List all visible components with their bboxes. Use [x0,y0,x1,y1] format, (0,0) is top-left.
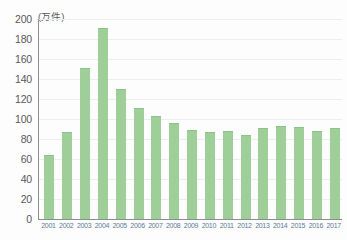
bar-slot [326,19,344,219]
y-axis-tick-label: 0 [26,213,32,225]
bar-slot [165,19,183,219]
bar-slot [254,19,272,219]
bar-slot [290,19,308,219]
x-axis-tick-label: 2015 [289,222,307,229]
y-axis-tick-label: 40 [21,173,32,185]
bar[interactable] [187,130,197,219]
bar[interactable] [80,68,90,219]
bar-slot [201,19,219,219]
y-axis-tick-label: 60 [21,153,32,165]
x-axis-tick-label: 2009 [182,222,200,229]
bar-slot [219,19,237,219]
plot-area [38,19,342,220]
bar-slot [94,19,112,219]
bar[interactable] [330,128,340,219]
y-axis-tick-label: 80 [21,133,32,145]
x-axis-tick-label: 2005 [111,222,129,229]
x-axis-tick-label: 2002 [57,222,75,229]
x-axis-tick-label: 2011 [218,222,236,229]
y-axis-tick-label: 180 [15,33,32,45]
bar-slot [112,19,130,219]
bar[interactable] [223,131,233,219]
x-axis-tick-label: 2004 [93,222,111,229]
x-axis-tick-label: 2008 [164,222,182,229]
x-axis-tick-label: 2007 [146,222,164,229]
bar-slot [183,19,201,219]
bar[interactable] [62,132,72,219]
y-axis-tick-label: 160 [15,53,32,65]
x-axis-tick-label: 2012 [236,222,254,229]
bar-slot [237,19,255,219]
bar-chart: (万件) 020406080100120140160180200 2001200… [0,0,347,240]
bar[interactable] [116,89,126,219]
bar-slot [58,19,76,219]
bar[interactable] [312,131,322,219]
x-axis-tick-label: 2001 [40,222,58,229]
x-axis-tick-label: 2003 [75,222,93,229]
bar[interactable] [169,123,179,219]
bar-slot [41,19,59,219]
bar[interactable] [205,132,215,219]
y-axis-tick-label: 140 [15,73,32,85]
x-axis-tick-label: 2014 [271,222,289,229]
bar[interactable] [134,108,144,219]
y-axis-tick-label: 100 [15,113,32,125]
bar[interactable] [44,155,54,219]
x-axis-tick-label: 2013 [253,222,271,229]
bar[interactable] [241,135,251,219]
x-axis-tick-labels: 2001200220032004200520062007200820092010… [40,222,343,229]
x-axis-tick-label: 2006 [129,222,147,229]
y-axis-tick-label: 120 [15,93,32,105]
x-axis-tick-label: 2010 [200,222,218,229]
y-axis-tick-label: 20 [21,193,32,205]
bar-slot [130,19,148,219]
y-axis-tick-labels: 020406080100120140160180200 [0,0,36,240]
bar[interactable] [258,128,268,219]
bar[interactable] [294,127,304,219]
bar-slot [308,19,326,219]
bar[interactable] [98,28,108,219]
bar-slot [76,19,94,219]
y-axis-tick-label: 200 [15,13,32,25]
bar-slot [147,19,165,219]
bar[interactable] [276,126,286,219]
x-axis-tick-label: 2016 [307,222,325,229]
bar-series [41,19,344,219]
bar-slot [272,19,290,219]
bar[interactable] [151,116,161,219]
x-axis-tick-label: 2017 [325,222,343,229]
